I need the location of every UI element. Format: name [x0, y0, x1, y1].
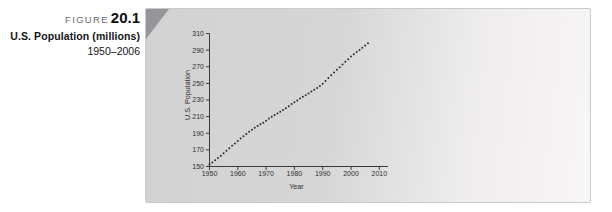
- data-point: [276, 112, 278, 114]
- data-point: [214, 159, 216, 161]
- data-point: [288, 105, 290, 107]
- data-point: [262, 122, 264, 124]
- x-axis-title: Year: [289, 182, 304, 191]
- data-point: [271, 116, 273, 118]
- data-point: [344, 61, 346, 63]
- x-tick-label: 2010: [372, 170, 388, 177]
- x-tick-label: 1970: [258, 170, 274, 177]
- y-tick-label: 310: [192, 30, 204, 37]
- data-point: [308, 92, 310, 94]
- data-point: [336, 69, 338, 71]
- data-point: [342, 64, 344, 66]
- y-tick-label: 170: [192, 146, 204, 153]
- data-point: [361, 47, 363, 49]
- y-tick-label: 190: [192, 130, 204, 137]
- data-point: [242, 135, 244, 137]
- figure-root: FIGURE20.1 U.S. Population (millions) 19…: [0, 0, 612, 212]
- data-point: [325, 80, 327, 82]
- data-point: [367, 42, 369, 44]
- figure-panel: 1501701902102302502702903101950196019701…: [145, 8, 591, 203]
- data-point: [319, 85, 321, 87]
- data-point: [251, 129, 253, 131]
- data-point: [302, 96, 304, 98]
- data-point: [225, 150, 227, 152]
- figure-subtitle: 1950–2006: [0, 45, 140, 58]
- x-tick-label: 1980: [287, 170, 303, 177]
- x-tick-label: 1950: [202, 170, 218, 177]
- data-point: [248, 131, 250, 133]
- data-point: [237, 140, 239, 142]
- y-tick-label: 250: [192, 80, 204, 87]
- data-point: [296, 99, 298, 101]
- population-chart: 1501701902102302502702903101950196019701…: [146, 9, 592, 204]
- figure-label: FIGURE: [65, 14, 109, 25]
- data-point: [268, 118, 270, 120]
- data-point: [211, 161, 213, 163]
- data-point: [310, 91, 312, 93]
- data-point: [305, 94, 307, 96]
- data-point: [234, 142, 236, 144]
- data-point: [220, 155, 222, 157]
- data-point: [279, 111, 281, 113]
- figure-title: U.S. Population (millions): [0, 30, 140, 43]
- y-tick-label: 230: [192, 96, 204, 103]
- y-tick-label: 210: [192, 113, 204, 120]
- data-point: [322, 83, 324, 85]
- data-point: [293, 101, 295, 103]
- data-point: [223, 152, 225, 154]
- data-point: [245, 133, 247, 135]
- data-point: [257, 125, 259, 127]
- data-point: [231, 145, 233, 147]
- data-point: [358, 49, 360, 51]
- data-point: [364, 45, 366, 47]
- data-point: [330, 74, 332, 76]
- x-tick-label: 1960: [230, 170, 246, 177]
- figure-label-line: FIGURE20.1: [0, 9, 140, 28]
- data-point: [259, 123, 261, 125]
- data-point: [313, 89, 315, 91]
- data-point: [217, 157, 219, 159]
- data-point: [333, 71, 335, 73]
- data-point: [347, 58, 349, 60]
- y-axis-title: U.S. Population: [183, 70, 192, 120]
- data-point: [327, 77, 329, 79]
- data-point: [240, 137, 242, 139]
- data-point: [209, 164, 211, 166]
- x-tick-label: 1990: [315, 170, 331, 177]
- data-point: [339, 66, 341, 68]
- data-point: [285, 107, 287, 109]
- data-point: [282, 109, 284, 111]
- data-point: [316, 87, 318, 89]
- figure-caption: FIGURE20.1 U.S. Population (millions) 19…: [0, 9, 140, 58]
- data-point: [228, 147, 230, 149]
- x-tick-label: 2000: [343, 170, 359, 177]
- data-point: [265, 120, 267, 122]
- data-point: [353, 53, 355, 55]
- data-point: [291, 103, 293, 105]
- data-point: [274, 114, 276, 116]
- data-point: [254, 127, 256, 129]
- y-tick-label: 270: [192, 63, 204, 70]
- data-point: [299, 98, 301, 100]
- y-tick-label: 290: [192, 47, 204, 54]
- data-point: [356, 51, 358, 53]
- y-tick-label: 150: [192, 163, 204, 170]
- data-point: [350, 56, 352, 58]
- figure-number: 20.1: [111, 9, 140, 26]
